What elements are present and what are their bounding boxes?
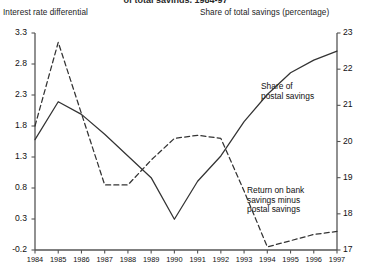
left-tick-label: 2.3 bbox=[1, 90, 27, 99]
x-tick-label: 1988 bbox=[115, 256, 141, 264]
left-tick-label: 0.8 bbox=[1, 183, 27, 192]
x-tick-label: 1989 bbox=[138, 256, 164, 264]
series-group bbox=[35, 42, 337, 247]
series-line-2 bbox=[35, 42, 337, 247]
right-tick-label: 22 bbox=[343, 64, 365, 73]
x-tick-label: 1984 bbox=[22, 256, 48, 264]
right-tick-label: 19 bbox=[343, 173, 365, 182]
left-tick-label: 1.8 bbox=[1, 121, 27, 130]
x-tick-label: 1995 bbox=[278, 256, 304, 264]
left-tick-label: 2.8 bbox=[1, 59, 27, 68]
right-tick-label: 21 bbox=[343, 100, 365, 109]
x-tick-label: 1990 bbox=[161, 256, 187, 264]
left-tick-label: 3.3 bbox=[1, 28, 27, 37]
x-tick-label: 1993 bbox=[231, 256, 257, 264]
right-tick-label: 18 bbox=[343, 209, 365, 218]
series-line-1 bbox=[35, 51, 337, 219]
left-tick-label: 1.3 bbox=[1, 152, 27, 161]
x-tick-label: 1985 bbox=[45, 256, 71, 264]
right-tick-label: 23 bbox=[343, 28, 365, 37]
x-tick-label: 1996 bbox=[301, 256, 327, 264]
chart-container: of total savings, 1984-97 Interest rate … bbox=[0, 0, 365, 274]
x-tick-label: 1986 bbox=[68, 256, 94, 264]
x-tick-label: 1994 bbox=[254, 256, 280, 264]
axes-group bbox=[32, 33, 341, 254]
right-tick-label: 17 bbox=[343, 245, 365, 254]
x-tick-label: 1991 bbox=[185, 256, 211, 264]
x-tick-label: 1992 bbox=[208, 256, 234, 264]
chart-canvas bbox=[0, 0, 365, 274]
x-tick-label: 1997 bbox=[324, 256, 350, 264]
left-tick-label: 0.3 bbox=[1, 214, 27, 223]
right-tick-label: 20 bbox=[343, 137, 365, 146]
x-tick-label: 1987 bbox=[92, 256, 118, 264]
left-tick-label: -0.2 bbox=[1, 245, 27, 254]
